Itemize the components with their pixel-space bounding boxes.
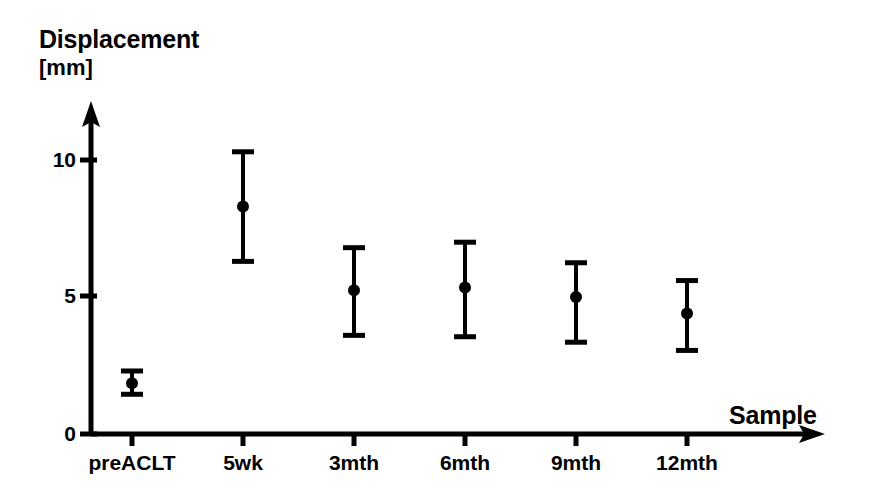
mean-marker: [348, 284, 360, 296]
mean-marker: [570, 291, 582, 303]
mean-marker: [237, 201, 249, 213]
data-point-12mth: [676, 281, 698, 351]
mean-marker: [126, 377, 138, 389]
data-point-5wk: [232, 152, 254, 262]
data-series-displacement: [121, 152, 698, 394]
data-point-preaclt: [121, 371, 143, 394]
plot-area: [0, 0, 883, 497]
chart-figure: Displacement [mm] Sample 10 5 0 preACLT …: [0, 0, 883, 497]
mean-marker: [459, 281, 471, 293]
data-point-3mth: [343, 248, 365, 336]
data-point-6mth: [454, 242, 476, 337]
mean-marker: [681, 307, 693, 319]
data-point-9mth: [565, 263, 587, 342]
